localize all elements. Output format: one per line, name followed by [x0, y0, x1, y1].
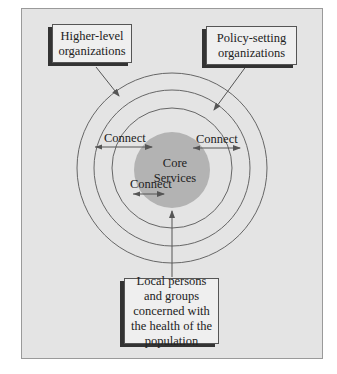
- higher-level-organizations-box: Higher-level organizations: [52, 24, 132, 63]
- core-services-label: Core Services: [147, 156, 203, 186]
- connect-label-right: Connect: [196, 132, 238, 147]
- higher-level-label: Higher-level organizations: [53, 29, 131, 59]
- policy-setting-label: Policy-setting organizations: [207, 31, 296, 61]
- local-persons-box: Local persons and groups concerned with …: [124, 278, 219, 344]
- connect-label-left: Connect: [104, 131, 146, 146]
- policy-setting-organizations-box: Policy-setting organizations: [206, 26, 297, 65]
- local-persons-label: Local persons and groups concerned with …: [129, 274, 214, 349]
